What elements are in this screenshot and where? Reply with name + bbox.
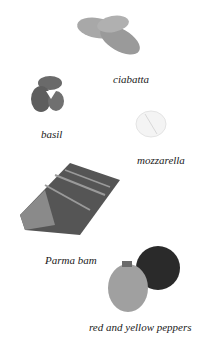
peppers-image <box>100 243 185 315</box>
parma-ham-label: Parma bam <box>45 254 97 266</box>
mozzarella-image <box>133 108 169 140</box>
parma-ham-image <box>15 155 125 240</box>
basil-image <box>28 73 68 115</box>
mozzarella-label: mozzarella <box>137 154 185 166</box>
peppers-label: red and yellow peppers <box>89 321 192 333</box>
ciabatta-image <box>75 10 147 60</box>
ciabatta-label: ciabatta <box>113 73 149 85</box>
basil-label: basil <box>41 128 62 140</box>
